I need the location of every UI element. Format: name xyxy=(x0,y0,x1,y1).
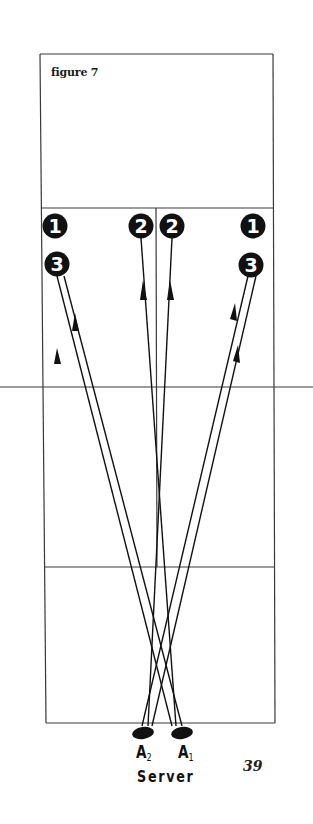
targets: 1 3 2 2 1 3 xyxy=(43,214,266,278)
server-positions xyxy=(131,726,193,741)
svg-text:3: 3 xyxy=(50,253,63,275)
server-a2-label: A2 xyxy=(136,742,152,763)
svg-text:3: 3 xyxy=(244,254,257,276)
shot-path-a2-right-3 xyxy=(142,276,248,726)
server-a2-letter: A xyxy=(136,742,147,762)
target-center-right-2: 2 xyxy=(160,214,185,239)
server-a1-subscript: 1 xyxy=(189,752,194,763)
court-right-sideline xyxy=(273,54,275,723)
target-left-3: 3 xyxy=(45,252,70,277)
arrow-icon xyxy=(167,280,174,300)
server-a1-letter: A xyxy=(178,742,189,762)
server-caption: Server xyxy=(137,768,195,786)
svg-text:2: 2 xyxy=(134,215,147,237)
court-left-sideline xyxy=(40,54,46,723)
arrow-icon xyxy=(230,303,237,321)
badminton-serve-diagram: 1 3 2 2 1 3 xyxy=(0,0,313,824)
arrow-icon xyxy=(72,313,79,331)
server-a2-subscript: 2 xyxy=(147,752,152,763)
shot-path-a2-left-3 xyxy=(57,276,172,726)
center-line xyxy=(156,208,157,567)
shot-path-a1-center-2 xyxy=(141,238,176,726)
court xyxy=(0,54,313,723)
svg-text:1: 1 xyxy=(246,215,259,237)
arrow-icon xyxy=(140,280,147,300)
target-left-1: 1 xyxy=(43,214,68,239)
figure-title: figure 7 xyxy=(51,66,98,79)
target-right-1: 1 xyxy=(241,214,266,239)
shot-path-a1-left-3 xyxy=(64,276,182,726)
arrow-icon xyxy=(54,348,61,364)
server-a1-marker xyxy=(170,726,193,741)
target-right-3: 3 xyxy=(239,253,264,278)
server-a2-marker xyxy=(131,726,154,741)
shot-path-a1-right-3 xyxy=(152,276,256,726)
target-center-left-2: 2 xyxy=(129,214,154,239)
svg-text:2: 2 xyxy=(165,215,178,237)
server-a1-label: A1 xyxy=(178,742,194,763)
svg-text:1: 1 xyxy=(48,215,61,237)
page-number: 39 xyxy=(243,758,262,774)
